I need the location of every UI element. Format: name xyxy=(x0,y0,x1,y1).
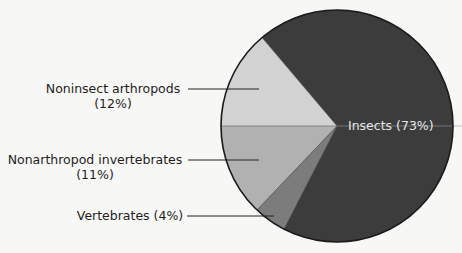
label-nonarthropod-pct: (11%) xyxy=(2,167,188,182)
label-noninsect-name: Noninsect arthropods xyxy=(46,81,180,96)
label-insects-text: Insects (73%) xyxy=(348,118,434,133)
label-vertebrates-text: Vertebrates (4%) xyxy=(77,208,183,223)
label-insects: Insects (73%) xyxy=(348,118,434,133)
label-noninsect-pct: (12%) xyxy=(36,96,190,111)
label-nonarthropod-invertebrates: Nonarthropod invertebrates (11%) xyxy=(2,152,188,182)
label-nonarthropod-name: Nonarthropod invertebrates xyxy=(8,152,183,167)
label-noninsect-arthropods: Noninsect arthropods (12%) xyxy=(36,81,190,111)
label-vertebrates: Vertebrates (4%) xyxy=(74,208,186,223)
